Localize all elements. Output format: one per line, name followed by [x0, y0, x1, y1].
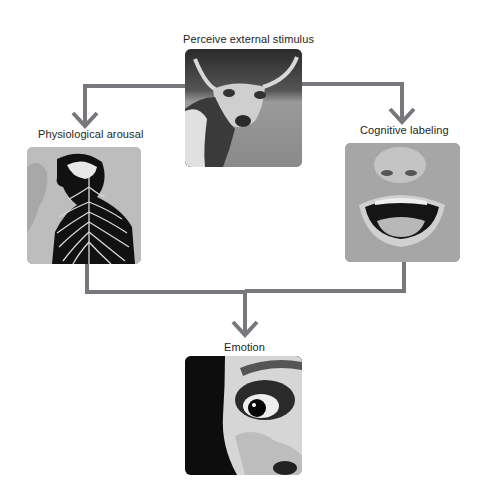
bull-image-icon [185, 49, 302, 167]
nervous-system-image-icon [27, 147, 141, 264]
node-label-arousal: Physiological arousal [38, 128, 143, 140]
longhorn-bull-photo [185, 49, 302, 167]
node-label-labeling: Cognitive labeling [360, 124, 449, 136]
edge-stimulus-to-labeling [302, 84, 402, 122]
edge-arousal-to-emotion [87, 264, 245, 292]
frightened-eye-photo [185, 356, 302, 475]
open-mouth-face-photo [345, 143, 460, 262]
mouth-image-icon [345, 143, 460, 262]
nervous-system-illustration [27, 147, 141, 264]
node-label-emotion: Emotion [224, 341, 265, 353]
edge-stimulus-to-arousal [85, 86, 186, 126]
eye-image-icon [185, 356, 302, 475]
node-label-stimulus: Perceive external stimulus [183, 33, 314, 45]
edge-labeling-to-emotion [245, 262, 404, 291]
